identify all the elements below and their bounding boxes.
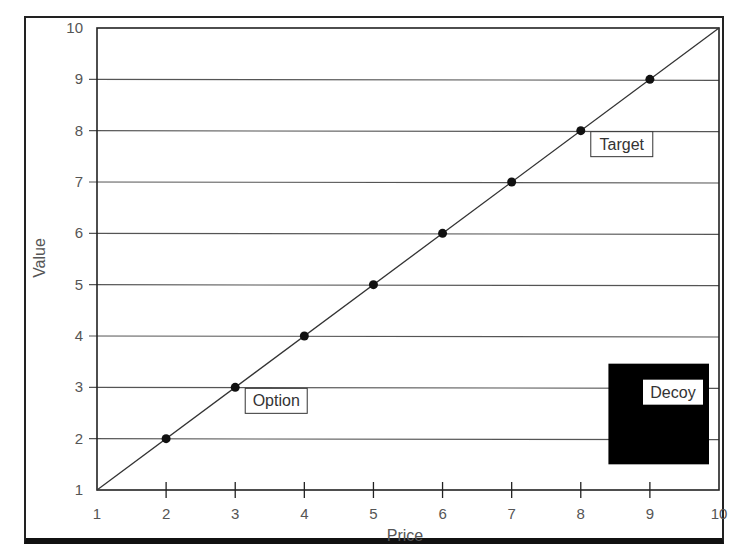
gridline <box>89 233 719 234</box>
gridline <box>89 182 719 183</box>
decoy-label: Decoy <box>650 384 695 401</box>
y-tick-label: 3 <box>75 378 83 395</box>
y-tick-label: 6 <box>75 224 83 241</box>
y-tick-label: 4 <box>75 327 83 344</box>
scatter-chart: 12345678910 12345678910 OptionTargetDeco… <box>0 0 732 558</box>
decoy-region <box>608 364 709 465</box>
target-label: Target <box>600 136 645 153</box>
x-tick-label: 5 <box>369 505 377 522</box>
data-point <box>300 332 309 341</box>
y-tick-label: 9 <box>75 70 83 87</box>
x-tick-label: 8 <box>577 505 585 522</box>
data-point <box>162 434 171 443</box>
y-tick-label: 1 <box>75 481 83 498</box>
x-tick-label: 7 <box>507 505 515 522</box>
data-point <box>369 280 378 289</box>
x-tick-label: 4 <box>300 505 308 522</box>
y-tick-label: 5 <box>75 276 83 293</box>
y-axis-ticks: 12345678910 <box>66 19 83 498</box>
gridline <box>89 336 719 337</box>
y-tick-label: 7 <box>75 173 83 190</box>
y-tick-label: 8 <box>75 122 83 139</box>
data-point <box>438 229 447 238</box>
data-point <box>645 75 654 84</box>
x-tick-label: 9 <box>646 505 654 522</box>
x-tick-label: 3 <box>231 505 239 522</box>
data-point <box>507 178 516 187</box>
option-label: Option <box>253 392 300 409</box>
gridline <box>89 79 719 80</box>
y-tick-label: 10 <box>66 19 83 36</box>
x-tick-label: 6 <box>438 505 446 522</box>
data-point <box>231 383 240 392</box>
x-tick-label: 10 <box>711 505 728 522</box>
x-tick-label: 2 <box>162 505 170 522</box>
x-tick-label: 1 <box>93 505 101 522</box>
x-axis-title: Price <box>387 527 424 544</box>
y-axis-title: Value <box>31 238 48 278</box>
gridline <box>89 285 719 286</box>
annotations: OptionTargetDecoy <box>245 132 709 465</box>
y-tick-label: 2 <box>75 430 83 447</box>
x-axis-ticks: 12345678910 <box>93 482 728 522</box>
data-point <box>576 126 585 135</box>
